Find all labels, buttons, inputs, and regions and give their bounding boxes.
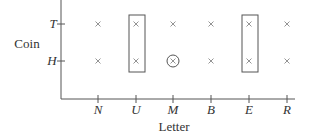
x-tick-U: U xyxy=(131,102,140,118)
x-tick-N: N xyxy=(94,102,103,118)
x-tick-E: E xyxy=(245,102,253,118)
x-marks xyxy=(96,22,290,64)
x-axis-title: Letter xyxy=(158,119,189,135)
x-tick-R: R xyxy=(283,102,291,118)
sample-space-diagram xyxy=(0,0,313,139)
y-tick-H: H xyxy=(47,53,56,69)
y-tick-T: T xyxy=(49,16,56,32)
y-axis-title: Coin xyxy=(14,36,39,52)
x-tick-M: M xyxy=(168,102,179,118)
x-tick-B: B xyxy=(207,102,215,118)
